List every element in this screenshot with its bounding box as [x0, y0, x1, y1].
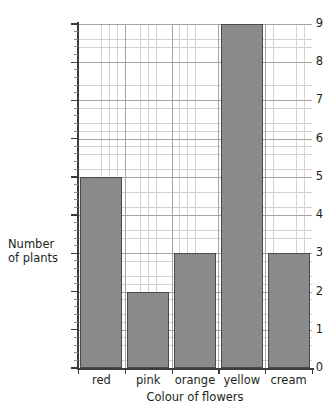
y-tick-major [71, 23, 78, 24]
y-tick-minor [74, 54, 78, 55]
y-tick-label: 8 [257, 56, 323, 68]
y-tick-label: 6 [257, 133, 323, 145]
y-tick-minor [74, 131, 78, 132]
y-tick-minor [74, 352, 78, 353]
y-tick-minor [74, 222, 78, 223]
y-tick-minor [74, 123, 78, 124]
y-tick-minor [74, 85, 78, 86]
y-tick-major [71, 176, 78, 177]
bar-chart: 0123456789 redpinkorangeyellowcream Numb… [0, 0, 323, 412]
y-tick-minor [74, 77, 78, 78]
gridline-vertical [125, 24, 126, 368]
y-tick-minor [74, 31, 78, 32]
bar-red [80, 177, 122, 368]
y-tick-minor [74, 153, 78, 154]
bar-pink [127, 292, 169, 368]
y-tick-minor [74, 245, 78, 246]
y-tick-major [71, 138, 78, 139]
bar-yellow [221, 24, 263, 368]
y-tick-minor [74, 46, 78, 47]
y-tick-minor [74, 345, 78, 346]
y-tick-minor [74, 199, 78, 200]
y-tick-minor [74, 108, 78, 109]
y-tick-major [71, 291, 78, 292]
y-tick-minor [74, 238, 78, 239]
plot-area [78, 24, 312, 368]
y-tick-minor [74, 283, 78, 284]
gridline-vertical [172, 24, 173, 368]
y-tick-major [71, 367, 78, 368]
y-tick-minor [74, 360, 78, 361]
y-axis-title: Number of plants [8, 237, 70, 265]
y-tick-minor [74, 306, 78, 307]
y-tick-minor [74, 92, 78, 93]
y-tick-minor [74, 169, 78, 170]
y-tick-minor [74, 161, 78, 162]
gridline-vertical [265, 24, 266, 368]
y-tick-major [71, 62, 78, 63]
y-tick-label: 4 [257, 209, 323, 221]
y-tick-minor [74, 268, 78, 269]
y-tick-major [71, 100, 78, 101]
y-tick-minor [74, 314, 78, 315]
y-tick-minor [74, 192, 78, 193]
y-tick-minor [74, 69, 78, 70]
y-tick-minor [74, 337, 78, 338]
y-tick-minor [74, 146, 78, 147]
y-tick-minor [74, 230, 78, 231]
y-tick-major [71, 253, 78, 254]
y-tick-minor [74, 299, 78, 300]
y-axis-title-line-2: of plants [8, 251, 70, 265]
x-tick-label-cream: cream [259, 374, 318, 387]
y-tick-minor [74, 184, 78, 185]
y-axis-title-line-1: Number [8, 237, 70, 251]
y-tick-label: 1 [257, 324, 323, 336]
y-tick-minor [74, 207, 78, 208]
x-axis-title: Colour of flowers [78, 391, 312, 404]
y-axis-line [77, 22, 79, 370]
y-tick-label: 2 [257, 286, 323, 298]
y-tick-label: 5 [257, 171, 323, 183]
y-tick-minor [74, 322, 78, 323]
y-tick-label: 3 [257, 247, 323, 259]
y-tick-minor [74, 39, 78, 40]
bar-cream [268, 253, 310, 368]
y-tick-label: 7 [257, 94, 323, 106]
y-tick-label: 9 [257, 18, 323, 30]
y-tick-minor [74, 260, 78, 261]
y-tick-major [71, 214, 78, 215]
bar-orange [174, 253, 216, 368]
y-tick-major [71, 329, 78, 330]
gridline-vertical [218, 24, 219, 368]
y-tick-minor [74, 276, 78, 277]
y-tick-minor [74, 115, 78, 116]
